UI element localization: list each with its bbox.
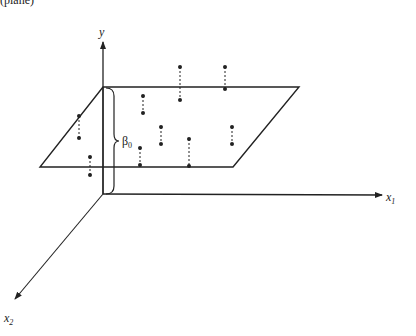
residual-8 [187, 137, 191, 168]
data-point [223, 65, 227, 69]
fitted-point [230, 142, 234, 146]
fitted-point [223, 87, 227, 91]
data-point [230, 125, 234, 129]
fitted-point [187, 164, 191, 168]
residual-2 [88, 155, 92, 177]
intercept-brace [106, 88, 119, 194]
fitted-point [77, 136, 81, 140]
residual-3 [141, 94, 145, 115]
fitted-point [88, 173, 92, 177]
fitted-point [141, 111, 145, 115]
x2-axis-label: x2 [3, 311, 13, 327]
residual-1 [77, 114, 81, 140]
intercept-label: β0 [122, 134, 132, 150]
residual-9 [230, 125, 234, 146]
fitted-point [138, 163, 142, 167]
data-point [187, 137, 191, 141]
fitted-point [159, 142, 163, 146]
data-point [141, 94, 145, 98]
data-point [88, 155, 92, 159]
residual-7 [138, 146, 142, 167]
data-point [77, 114, 81, 118]
data-point [138, 146, 142, 150]
caption-fragment: (plane) [0, 0, 34, 7]
regression-plane-diagram: (plane) y x1 x2 β0 [0, 0, 416, 336]
x1-axis-label: x1 [385, 190, 395, 206]
x1-axis [103, 194, 382, 195]
y-axis-label: y [98, 25, 105, 39]
data-point [178, 65, 182, 69]
fitted-point [178, 98, 182, 102]
residuals [77, 65, 234, 177]
residual-4 [178, 65, 182, 102]
x2-axis [15, 194, 103, 299]
residual-6 [159, 125, 163, 146]
regression-plane [40, 87, 299, 167]
data-point [159, 125, 163, 129]
